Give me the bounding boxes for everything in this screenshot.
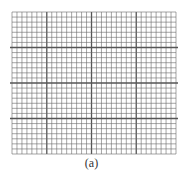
- figure-caption: (a): [0, 156, 183, 171]
- grid-paper: [0, 0, 183, 174]
